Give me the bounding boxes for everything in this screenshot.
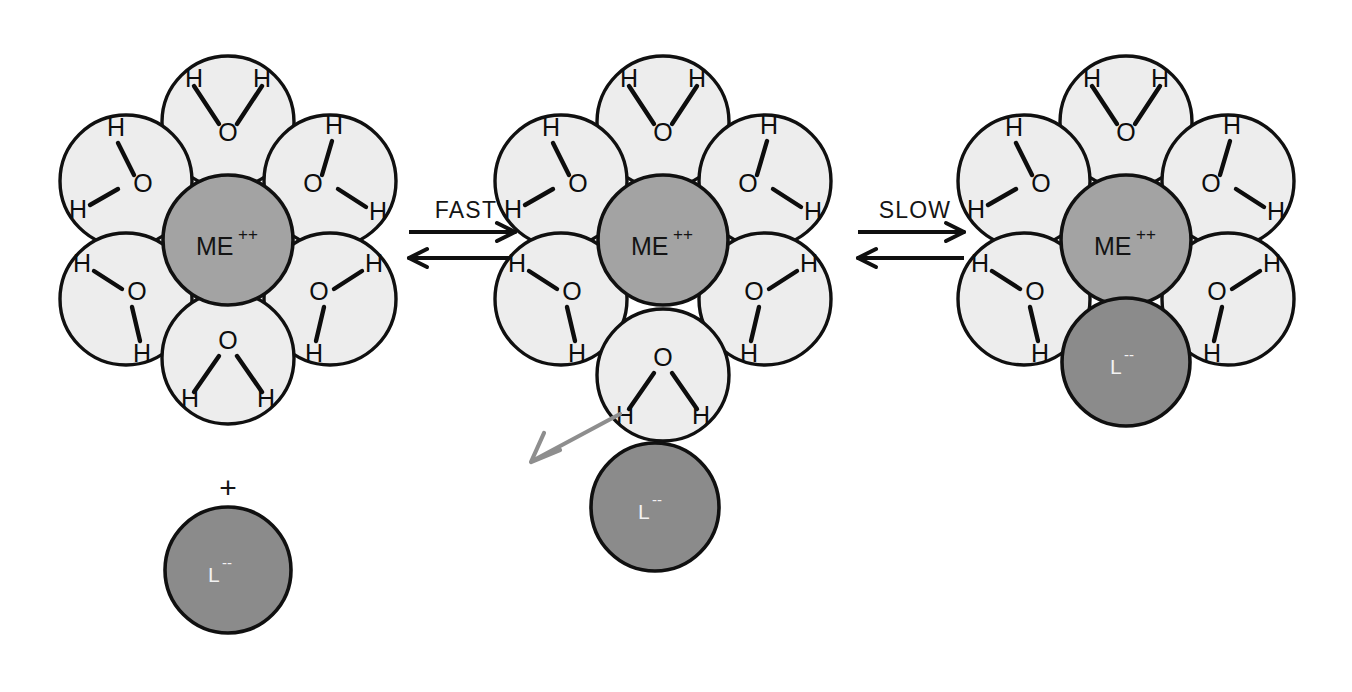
cluster-hexaaqua-complex[interactable]: ME ++ + L --: [60, 56, 396, 633]
metal-ion-charge: ++: [673, 225, 693, 244]
bound-ligand-charge: --: [1124, 346, 1134, 363]
plus-sign: +: [219, 471, 237, 504]
slow-equilibrium-arrows: [858, 223, 964, 267]
metal-ion-charge: ++: [238, 225, 258, 244]
reaction-label-fast: FAST: [435, 197, 497, 223]
free-ligand-symbol: L: [208, 563, 220, 586]
water-displacement-arrow: [531, 414, 620, 462]
diagram-canvas: H H O H H O H H O: [0, 0, 1352, 692]
cluster-outer-sphere-complex[interactable]: ME ++ L --: [495, 56, 831, 571]
reaction-arrow-slow[interactable]: SLOW: [858, 197, 964, 267]
reaction-label-slow: SLOW: [879, 197, 952, 223]
outer-sphere-ligand-symbol: L: [638, 500, 650, 523]
free-ligand-charge: --: [222, 554, 232, 571]
cluster-inner-sphere-complex[interactable]: ME ++ L --: [958, 56, 1294, 426]
outer-sphere-ligand-charge: --: [652, 491, 662, 508]
bound-ligand-symbol: L: [1110, 355, 1122, 378]
fast-equilibrium-arrows: [409, 223, 515, 267]
metal-ion-symbol: ME: [1094, 232, 1132, 260]
metal-ion-symbol: ME: [196, 232, 234, 260]
metal-ion-charge: ++: [1136, 225, 1156, 244]
reaction-scheme: H H O H H O H H O: [0, 0, 1352, 692]
metal-ion-symbol: ME: [631, 232, 669, 260]
